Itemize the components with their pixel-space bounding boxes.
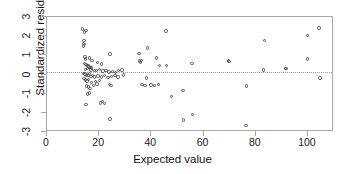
data-point <box>88 87 91 90</box>
data-point <box>143 84 146 87</box>
data-point <box>190 62 193 65</box>
data-point <box>137 52 140 55</box>
x-axis-tick-label: 0 <box>26 137 66 148</box>
data-point <box>84 29 87 32</box>
data-point <box>88 91 91 94</box>
data-point <box>182 118 185 121</box>
y-axis-tick-label: 3 <box>21 10 32 24</box>
data-point <box>155 56 158 59</box>
data-point <box>262 68 265 71</box>
data-point <box>90 59 93 62</box>
x-axis-tick-label: 100 <box>287 137 327 148</box>
data-point <box>103 102 106 105</box>
data-point <box>306 57 309 60</box>
data-point <box>227 60 230 63</box>
data-point <box>108 52 111 55</box>
data-point <box>165 64 168 67</box>
data-point <box>109 84 112 87</box>
data-point <box>245 84 248 87</box>
data-point <box>263 39 266 42</box>
x-axis-tick-label: 20 <box>78 137 118 148</box>
data-point <box>122 73 125 76</box>
y-axis-tick-label: 2 <box>21 29 32 43</box>
data-point <box>96 61 99 64</box>
data-point <box>108 117 111 120</box>
x-axis-tick-label: 40 <box>130 137 170 148</box>
data-point <box>84 57 87 60</box>
data-point <box>146 46 149 49</box>
data-point <box>244 124 247 127</box>
y-axis-tick-label: -2 <box>21 105 32 119</box>
y-axis-tick-label: -1 <box>21 86 32 100</box>
data-point <box>181 89 184 92</box>
data-point <box>95 82 98 85</box>
scatter-plot: Standardized residual Expected value 321… <box>0 0 345 174</box>
data-point <box>120 68 123 71</box>
plot-frame <box>46 16 333 131</box>
data-point <box>82 44 85 47</box>
data-point <box>318 76 321 79</box>
data-point <box>116 75 119 78</box>
data-point <box>158 64 161 67</box>
x-axis-tick-label: 60 <box>183 137 223 148</box>
data-point <box>164 29 167 32</box>
data-point <box>306 34 309 37</box>
data-point <box>157 83 160 86</box>
y-axis-tick-label: 1 <box>21 48 32 62</box>
y-axis-tick-label: 0 <box>21 67 32 81</box>
y-axis-title-holder: Standardized residual <box>6 20 20 130</box>
data-point <box>170 95 173 98</box>
data-point <box>145 76 148 79</box>
data-point <box>100 62 103 65</box>
data-point <box>191 113 194 116</box>
data-point <box>317 26 320 29</box>
data-point <box>284 67 287 70</box>
y-axis-title: Standardized residual <box>34 0 46 120</box>
x-axis-tick-label: 80 <box>235 137 275 148</box>
x-axis-title: Expected value <box>0 153 345 165</box>
data-point <box>140 59 143 62</box>
data-point <box>84 103 87 106</box>
data-point <box>153 84 156 87</box>
